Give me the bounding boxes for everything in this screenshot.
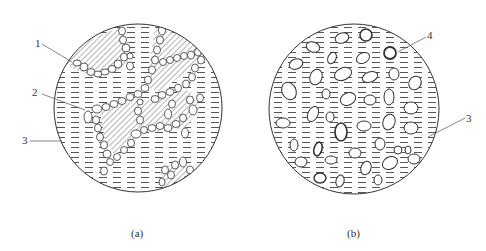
panel-b-structure — [265, 20, 445, 200]
micrograph-figure: 1 2 3 (a) — [0, 0, 486, 251]
callout-4-label: 4 — [427, 29, 433, 41]
callout-1-leader — [42, 44, 72, 62]
caption-b: (b) — [347, 227, 360, 240]
panel-a: 1 2 3 (a) — [22, 20, 230, 240]
callout-3a-label: 3 — [22, 134, 28, 146]
panel-a-structure — [50, 20, 230, 200]
panel-b: 4 3 (b) — [265, 20, 472, 240]
callout-3b-label: 3 — [466, 112, 472, 124]
dispersed-particle — [384, 47, 396, 59]
caption-a: (a) — [131, 227, 144, 240]
callout-1-label: 1 — [35, 37, 41, 49]
callout-2-label: 2 — [32, 86, 38, 98]
